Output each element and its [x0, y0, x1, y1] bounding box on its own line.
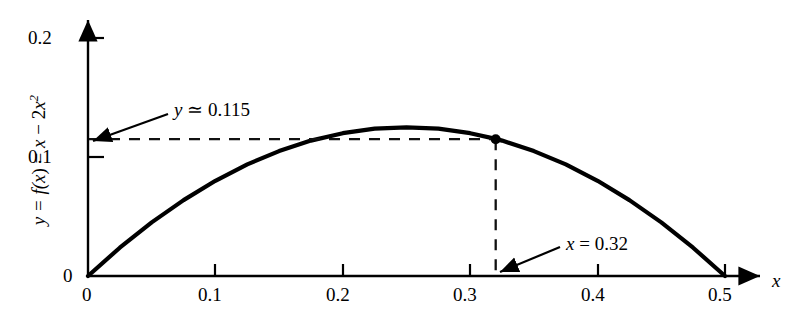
function-curve — [88, 127, 725, 276]
x-tick-label-0.2: 0.2 — [326, 285, 350, 304]
y-axis-label-part-x: x — [28, 140, 49, 148]
x-axis-label: x — [772, 271, 780, 290]
x-annotation-var: x — [566, 233, 574, 254]
x-tick-label-0.4: 0.4 — [581, 285, 605, 304]
y-axis-label-part-exponent: 2 — [26, 95, 41, 101]
x-tick-label-0.5: 0.5 — [708, 285, 732, 304]
marked-point — [491, 134, 501, 144]
x-value-annotation: x = 0.32 — [566, 234, 628, 253]
y-tick-label-0: 0 — [63, 266, 73, 285]
y-axis-label-part-prefix: y = f( — [28, 183, 49, 225]
y-annotation-arrow — [93, 114, 168, 141]
chart-canvas — [0, 0, 793, 327]
x-axis-ticks — [215, 264, 725, 276]
y-tick-label-0.2: 0.2 — [28, 28, 52, 47]
x-annotation-value: 0.32 — [595, 233, 628, 254]
y-value-annotation: y ≃ 0.115 — [174, 100, 250, 119]
x-tick-label-0.3: 0.3 — [453, 285, 477, 304]
x-annotation-arrow — [500, 247, 560, 272]
y-axis-label: y = f(x) = x − 2x2 — [26, 60, 50, 260]
y-axis-label-part-x2: x — [28, 101, 49, 109]
x-tick-label-0.1: 0.1 — [198, 285, 222, 304]
x-tick-label-0: 0 — [82, 285, 92, 304]
y-annotation-value: 0.115 — [208, 99, 250, 120]
y-annotation-relation: ≃ — [187, 99, 203, 120]
y-annotation-var: y — [174, 99, 182, 120]
parabola-figure: 0.2 0.1 0 0 0.1 0.2 0.3 0.4 0.5 x y = f(… — [0, 0, 793, 327]
x-annotation-relation: = — [579, 233, 590, 254]
y-axis-label-part-var: x — [28, 175, 49, 183]
y-axis-label-part-minus: − 2 — [28, 110, 49, 140]
y-axis-label-part-mid: ) = — [28, 148, 49, 175]
